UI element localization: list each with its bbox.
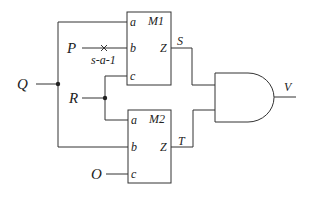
circuit-diagram: Q P s-a-1 R O a b c M1 Z S a b c M2 Z T …	[0, 0, 314, 199]
junction-r	[103, 96, 107, 100]
m2-pin-b: b	[131, 140, 137, 154]
wire-r-bus	[105, 76, 128, 120]
m2-pin-z: Z	[160, 140, 167, 154]
m1-pin-b: b	[130, 41, 136, 55]
m1-pin-c: c	[130, 69, 136, 83]
junction-q	[56, 82, 60, 86]
label-s: S	[177, 34, 183, 48]
label-p: P	[66, 40, 76, 56]
m2-pin-c: c	[131, 167, 137, 181]
m2-label: M2	[148, 112, 165, 126]
label-v: V	[284, 80, 293, 94]
m1-pin-a: a	[130, 15, 136, 29]
and-gate	[215, 73, 274, 122]
label-t: T	[178, 134, 186, 148]
label-r: R	[68, 90, 78, 106]
label-fault: s-a-1	[91, 53, 116, 67]
m1-pin-z: Z	[160, 41, 167, 55]
label-q: Q	[17, 76, 28, 92]
label-o: O	[91, 166, 102, 182]
wire-s	[171, 48, 215, 85]
m2-pin-a: a	[131, 113, 137, 127]
m1-label: M1	[147, 14, 164, 28]
